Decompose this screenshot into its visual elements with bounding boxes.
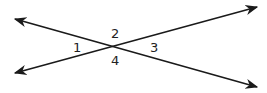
angle-label-1: 1 — [73, 40, 81, 55]
angle-label-4: 4 — [111, 53, 119, 68]
line-b — [15, 7, 257, 73]
angle-label-3: 3 — [150, 40, 158, 55]
intersecting-lines-diagram: 1 2 3 4 — [0, 0, 267, 93]
angle-label-2: 2 — [111, 26, 119, 41]
line-a — [15, 19, 257, 87]
